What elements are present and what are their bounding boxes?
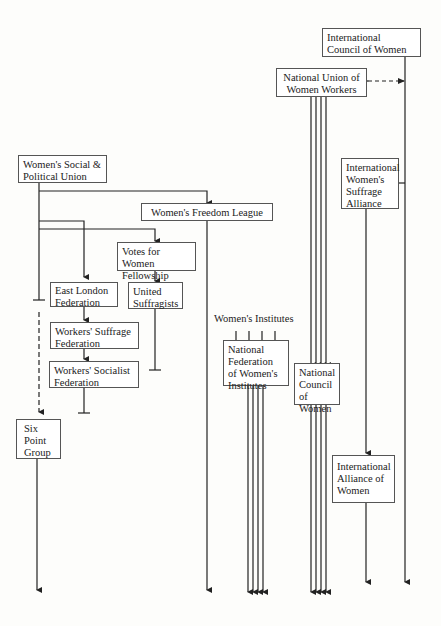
- node-label: National Council of Women: [299, 367, 335, 414]
- node-international-alliance-of-women: International Alliance of Women: [332, 455, 395, 503]
- node-label: International Council of Women: [327, 32, 406, 55]
- node-label: Women's Freedom League: [151, 207, 263, 218]
- node-workers-suffrage-federation: Workers' Suffrage Federation: [50, 322, 139, 349]
- node-national-federation-of-womens-institutes: National Federation of Women's Institute…: [223, 340, 289, 386]
- node-united-suffragists: United Suffragists: [128, 282, 183, 309]
- node-label: International Alliance of Women: [337, 461, 391, 496]
- node-label: Workers' Suffrage Federation: [55, 326, 131, 349]
- node-womens-social-political-union: Women's Social & Political Union: [18, 155, 107, 183]
- node-votes-for-women-fellowship: Votes for Women Fellowship: [117, 242, 196, 271]
- node-international-council-of-women: International Council of Women: [322, 28, 421, 57]
- node-workers-socialist-federation: Workers' Socialist Federation: [49, 361, 139, 388]
- label-womens-institutes: Women's Institutes: [214, 313, 294, 325]
- node-international-womens-suffrage-alliance: International Women's Suffrage Alliance: [341, 158, 399, 209]
- node-label: East London Federation: [55, 285, 108, 308]
- node-east-london-federation: East London Federation: [50, 282, 118, 307]
- node-label: National Federation of Women's Institute…: [228, 344, 278, 391]
- node-label: International Women's Suffrage Alliance: [346, 162, 400, 209]
- node-label: Votes for Women Fellowship: [122, 246, 169, 281]
- node-womens-freedom-league: Women's Freedom League: [141, 203, 273, 221]
- node-label: Workers' Socialist Federation: [54, 365, 130, 388]
- node-label: National Union of Women Workers: [283, 72, 359, 95]
- node-label: Women's Social & Political Union: [23, 159, 101, 182]
- node-national-union-of-women-workers: National Union of Women Workers: [276, 68, 367, 97]
- node-label: Six Point Group: [24, 423, 51, 458]
- node-six-point-group: Six Point Group: [16, 419, 61, 459]
- node-national-council-of-women: National Council of Women: [294, 363, 340, 405]
- node-label: United Suffragists: [133, 286, 178, 309]
